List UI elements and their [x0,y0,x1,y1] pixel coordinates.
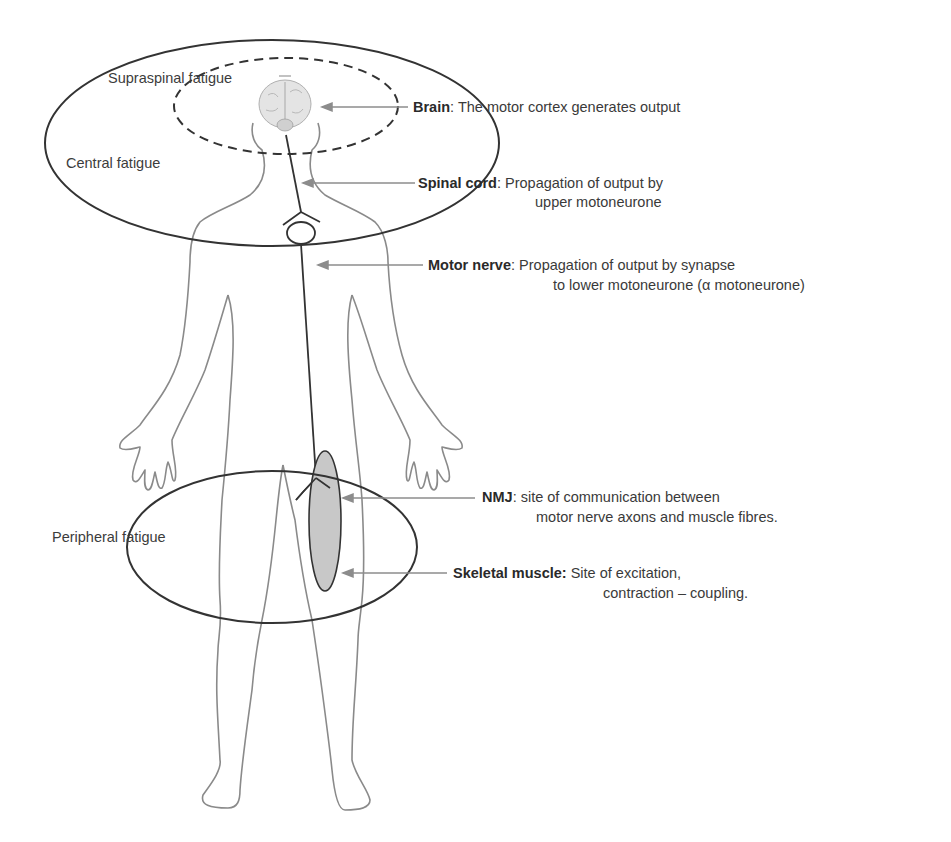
nmj-annotation: NMJ: site of communication between [482,488,720,506]
nmj-term: NMJ [482,489,513,505]
nmj-description-2: motor nerve axons and muscle fibres. [536,508,778,526]
spinal-cord-annotation: Spinal cord: Propagation of output by [418,174,663,192]
brain-description: The motor cortex generates output [458,99,680,115]
fatigue-diagram [0,0,951,842]
motor-nerve-annotation: Motor nerve: Propagation of output by sy… [428,256,735,274]
skeletal-muscle-description-2: contraction – coupling. [603,584,748,602]
peripheral-fatigue-ellipse [127,471,417,623]
motor-nerve-description-1: Propagation of output by synapse [519,257,735,273]
nmj-description-1: site of communication between [521,489,720,505]
skeletal-muscle-annotation: Skeletal muscle: Site of excitation, [453,564,681,582]
spinal-cord-description-1: Propagation of output by [505,175,663,191]
brain-icon [259,76,311,131]
skeletal-muscle-shape [309,451,341,591]
skeletal-muscle-description-1: Site of excitation, [571,565,681,581]
peripheral-fatigue-label: Peripheral fatigue [52,529,166,545]
brain-annotation: Brain: The motor cortex generates output [413,98,680,116]
central-fatigue-label: Central fatigue [66,155,160,171]
motor-nerve-description-2: to lower motoneurone (α motoneurone) [553,276,805,294]
spinal-cord-term: Spinal cord [418,175,497,191]
nerve-pathway [283,135,330,500]
skeletal-muscle-term: Skeletal muscle: [453,565,567,581]
brain-term: Brain [413,99,450,115]
supraspinal-fatigue-label: Supraspinal fatigue [108,70,232,86]
motor-nerve-term: Motor nerve [428,257,511,273]
spinal-cord-description-2: upper motoneurone [535,193,662,211]
